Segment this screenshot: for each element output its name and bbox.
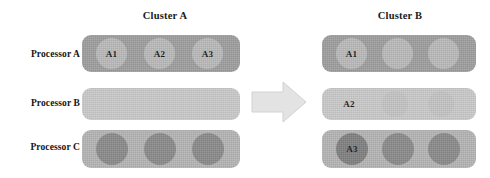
cluster-b-processor-b-bar: A2: [322, 88, 476, 120]
processor-label-b: Processor B: [8, 98, 80, 108]
cluster-b-row-2-slot-0-a3: A3: [336, 133, 368, 165]
cluster-a-row-1-slot-0-empty: [96, 91, 122, 117]
cluster-a-row-0-slot-1-a2: A2: [144, 38, 175, 69]
cluster-b-processor-a-bar: A1: [322, 35, 476, 72]
cluster-b-row-1-slot-2-empty: [428, 91, 454, 117]
cluster-a-row-0-slot-0-a1: A1: [96, 38, 127, 69]
cluster-b-row-0-slot-2-empty: [428, 38, 459, 69]
cluster-b-row-0-slot-1-empty: [382, 38, 413, 69]
cluster-a-processor-a-bar: A1A2A3: [82, 35, 240, 72]
cluster-b-row-2-slot-1-empty: [382, 133, 414, 165]
cluster-b-row-0-slot-0-a1: A1: [336, 38, 367, 69]
cluster-a-processor-b-bar: [82, 88, 240, 120]
cluster-migration-diagram: Cluster A Cluster B Processor A Processo…: [0, 0, 490, 178]
cluster-a-title: Cluster A: [120, 10, 210, 21]
cluster-a-row-1-slot-1-empty: [144, 91, 170, 117]
cluster-a-row-2-slot-0-empty: [96, 133, 128, 165]
cluster-b-processor-c-bar: A3: [322, 130, 476, 168]
cluster-a-processor-c-bar: [82, 130, 240, 168]
cluster-a-row-0-slot-2-a3: A3: [192, 38, 223, 69]
processor-label-a: Processor A: [8, 49, 80, 59]
cluster-a-row-2-slot-2-empty: [192, 133, 224, 165]
cluster-a-row-2-slot-1-empty: [144, 133, 176, 165]
cluster-a-row-1-slot-2-empty: [192, 91, 218, 117]
cluster-b-row-2-slot-2-empty: [428, 133, 460, 165]
processor-label-c: Processor C: [8, 142, 80, 152]
cluster-b-row-1-slot-0-a2: A2: [336, 91, 362, 117]
cluster-b-title: Cluster B: [355, 10, 445, 21]
cluster-b-row-1-slot-1-empty: [382, 91, 408, 117]
right-block-arrow-icon: [250, 80, 308, 124]
